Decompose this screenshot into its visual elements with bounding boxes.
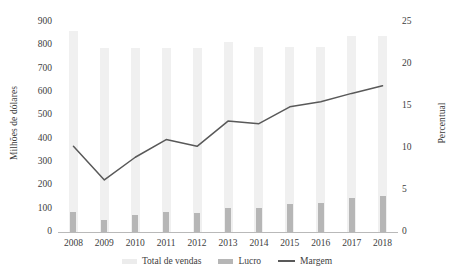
y-tick-right: 15 [402, 101, 412, 111]
legend-label-margin: Margem [300, 256, 332, 266]
x-tick: 2013 [213, 238, 244, 248]
chart-legend: Total de vendas Lucro Margem [0, 256, 454, 266]
legend-swatch-margin-icon [278, 260, 295, 262]
x-tick: 2018 [367, 238, 398, 248]
y-tick-left: 800 [8, 40, 52, 50]
x-tick: 2011 [151, 238, 182, 248]
y-axis-ticks-left: 0100200300400500600700800900 [0, 0, 52, 278]
y-tick-left: 400 [8, 134, 52, 144]
y-tick-left: 700 [8, 64, 52, 74]
y-tick-right: 0 [402, 227, 407, 237]
chart-container: Milhões de dólares Percentual 0100200300… [0, 0, 454, 278]
legend-item-margem[interactable]: Margem [278, 256, 332, 266]
y-tick-left: 100 [8, 204, 52, 214]
y-tick-right: 5 [402, 185, 407, 195]
margin-line [73, 86, 382, 180]
x-tick: 2017 [336, 238, 367, 248]
y-tick-right: 10 [402, 143, 412, 153]
x-tick: 2014 [243, 238, 274, 248]
y-tick-left: 300 [8, 157, 52, 167]
y-tick-right: 25 [402, 17, 412, 27]
plot-area [58, 22, 398, 232]
x-tick: 2008 [58, 238, 89, 248]
legend-item-lucro[interactable]: Lucro [218, 256, 261, 266]
legend-swatch-sales-icon [122, 259, 137, 264]
legend-label-profit: Lucro [238, 256, 261, 266]
x-tick: 2010 [120, 238, 151, 248]
y-tick-right: 20 [402, 59, 412, 69]
x-tick: 2009 [89, 238, 120, 248]
x-tick: 2015 [274, 238, 305, 248]
margin-line-layer [58, 22, 398, 232]
y-tick-left: 200 [8, 180, 52, 190]
x-axis-line [58, 232, 398, 233]
y-tick-left: 500 [8, 110, 52, 120]
x-tick: 2016 [305, 238, 336, 248]
y-tick-left: 0 [8, 227, 52, 237]
legend-label-sales: Total de vendas [142, 256, 201, 266]
y-axis-title-right: Percentual [437, 73, 447, 173]
y-tick-left: 600 [8, 87, 52, 97]
x-tick: 2012 [182, 238, 213, 248]
legend-swatch-profit-icon [218, 259, 233, 264]
y-tick-left: 900 [8, 17, 52, 27]
y-axis-ticks-right: 0510152025 [402, 0, 432, 278]
legend-item-total-de-vendas[interactable]: Total de vendas [122, 256, 201, 266]
